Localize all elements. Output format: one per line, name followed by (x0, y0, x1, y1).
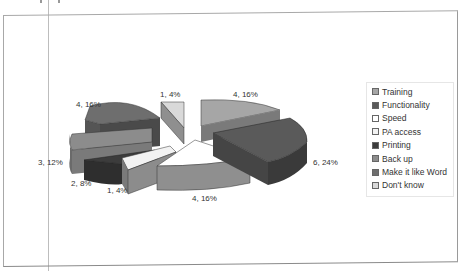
data-label-back-up: 3, 12% (38, 158, 63, 167)
data-label-printing: 2, 8% (71, 179, 91, 188)
legend-item-speed: Speed (372, 112, 453, 125)
legend-swatch (372, 142, 379, 149)
slice-dont-know (161, 102, 184, 144)
legend-swatch (372, 182, 379, 189)
legend-swatch (372, 88, 379, 95)
legend-swatch (372, 102, 379, 109)
legend-label: Printing (382, 140, 411, 150)
data-label-make-it-like-word: 4, 16% (76, 100, 101, 109)
legend-item-functionality: Functionality (372, 98, 453, 111)
legend-label: Don't know (382, 180, 424, 190)
data-label-pa-access: 1, 4% (107, 186, 127, 195)
legend-item-printing: Printing (372, 139, 453, 152)
legend-item-make-it-like-word: Make it like Word (372, 165, 453, 178)
legend-swatch (372, 169, 379, 176)
data-label-speed: 4, 16% (192, 194, 217, 203)
legend-label: PA access (382, 127, 421, 137)
legend-swatch (372, 128, 379, 135)
data-label-dont-know: 1, 4% (160, 90, 180, 99)
legend-label: Back up (382, 154, 413, 164)
legend-label: Functionality (382, 100, 430, 110)
legend-swatch (372, 155, 379, 162)
chart-legend: Training Functionality Speed PA access P… (366, 82, 454, 197)
data-label-training: 4, 16% (233, 90, 258, 99)
legend-label: Speed (382, 113, 407, 123)
legend-item-dont-know: Don't know (372, 179, 453, 192)
data-label-functionality: 6, 24% (313, 158, 338, 167)
legend-swatch (372, 115, 379, 122)
legend-item-pa-access: PA access (372, 125, 453, 138)
legend-label: Training (382, 87, 412, 97)
legend-item-training: Training (372, 85, 453, 98)
legend-item-back-up: Back up (372, 152, 453, 165)
legend-label: Make it like Word (382, 167, 447, 177)
